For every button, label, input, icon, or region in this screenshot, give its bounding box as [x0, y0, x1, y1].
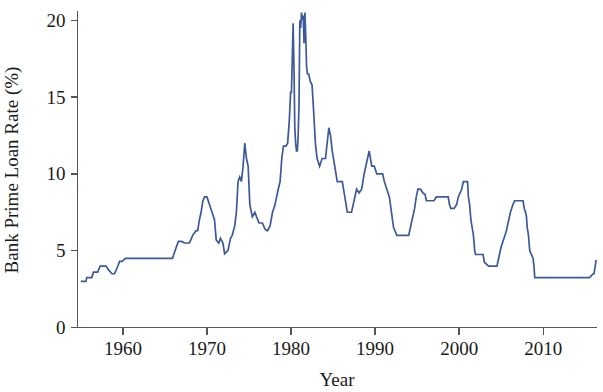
- y-tick-label: 10: [47, 163, 66, 184]
- y-axis-group: 05101520: [47, 10, 78, 338]
- y-tick-label: 0: [56, 317, 66, 338]
- x-tick-label: 1970: [188, 338, 226, 359]
- x-tick-labels: 196019701980199020002010: [104, 338, 562, 359]
- chart-canvas: 05101520 196019701980199020002010 Year B…: [0, 0, 603, 392]
- y-tick-label: 5: [56, 240, 66, 261]
- plot-area: [81, 13, 596, 282]
- y-tick-label: 20: [47, 10, 66, 31]
- x-tick-label: 2010: [524, 338, 562, 359]
- chart-figure: 05101520 196019701980199020002010 Year B…: [0, 0, 603, 392]
- y-axis-title: Bank Prime Loan Rate (%): [1, 67, 23, 274]
- y-tick-labels: 05101520: [47, 10, 66, 338]
- x-axis-title: Year: [319, 369, 355, 390]
- y-tick-marks: [71, 20, 78, 327]
- x-tick-label: 1990: [356, 338, 394, 359]
- x-axis-group: 196019701980199020002010: [77, 328, 597, 359]
- x-tick-label: 2000: [440, 338, 478, 359]
- series-line-bank-prime-loan-rate: [81, 13, 596, 282]
- y-tick-label: 15: [47, 87, 66, 108]
- x-tick-label: 1980: [272, 338, 310, 359]
- x-tick-marks: [123, 328, 543, 335]
- x-tick-label: 1960: [104, 338, 142, 359]
